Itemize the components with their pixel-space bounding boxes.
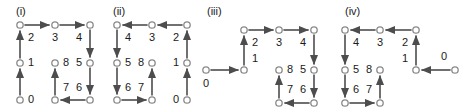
node-n-ml-panel-ii	[114, 60, 120, 66]
edge-label-1-panel-iv: 1	[402, 52, 408, 64]
figure-canvas: 012345678012345678012345678012345678 (i)…	[0, 0, 462, 111]
node-n-bl-panel-ii	[114, 97, 120, 103]
edge-label-0-panel-iv: 0	[441, 50, 447, 62]
edge-label-8-panel-iv: 8	[366, 63, 372, 75]
edge-label-layer: 012345678012345678012345678012345678	[28, 31, 447, 105]
edge-label-4-panel-i: 4	[76, 31, 82, 43]
node-n-mr-panel-ii	[184, 60, 190, 66]
node-n-mr-panel-iv	[413, 67, 419, 73]
edge-label-3-panel-iii: 3	[276, 36, 282, 48]
edge-layer	[20, 25, 451, 103]
edge-label-1-panel-iii: 1	[252, 52, 258, 64]
node-n-bm-panel-ii	[149, 97, 155, 103]
node-n-ml-panel-iv	[342, 67, 348, 73]
node-n-bl-panel-iv	[342, 100, 348, 106]
node-n-ml-panel-i	[17, 60, 23, 66]
node-n-bm-panel-i	[52, 97, 58, 103]
node-n-tl-panel-iv	[342, 27, 348, 33]
node-n-tm-panel-iii	[276, 27, 282, 33]
panel-caption-panel-ii: (ii)	[113, 6, 125, 17]
edge-label-0-panel-i: 0	[28, 93, 34, 105]
node-n-tm-panel-iv	[377, 27, 383, 33]
edge-label-3-panel-iv: 3	[377, 36, 383, 48]
edge-label-8-panel-i: 8	[63, 56, 69, 68]
edge-label-2-panel-iv: 2	[402, 36, 408, 48]
node-n-tl-panel-ii	[114, 22, 120, 28]
edge-label-4-panel-iii: 4	[300, 36, 306, 48]
edge-label-8-panel-ii: 8	[138, 56, 144, 68]
edge-label-4-panel-iv: 4	[353, 36, 359, 48]
node-n-mm-panel-iii	[276, 67, 282, 73]
edge-label-2-panel-i: 2	[28, 31, 34, 43]
node-n-br-panel-i	[87, 97, 93, 103]
node-n-mr-panel-i	[87, 60, 93, 66]
edge-label-6-panel-ii: 6	[125, 81, 131, 93]
edge-label-0-panel-ii: 0	[173, 93, 179, 105]
edge-label-6-panel-iii: 6	[300, 83, 306, 95]
edge-label-1-panel-ii: 1	[173, 56, 179, 68]
node-n-bm-panel-iii	[276, 100, 282, 106]
node-n-tl-panel-iii	[241, 27, 247, 33]
node-n-bm-panel-iv	[377, 100, 383, 106]
edge-label-2-panel-ii: 2	[173, 31, 179, 43]
node-n-tl-panel-i	[17, 22, 23, 28]
edge-label-3-panel-i: 3	[52, 31, 58, 43]
edge-label-5-panel-iv: 5	[353, 63, 359, 75]
node-n-mr-panel-iii	[311, 67, 317, 73]
panel-caption-panel-iv: (iv)	[345, 6, 360, 17]
edge-label-7-panel-iii: 7	[287, 83, 293, 95]
node-n-tr-panel-iv	[413, 27, 419, 33]
panel-caption-panel-i: (i)	[16, 6, 26, 17]
node-n-tm-panel-ii	[149, 22, 155, 28]
panel-caption-panel-iii: (iii)	[207, 6, 222, 17]
node-n-br-panel-ii	[184, 97, 190, 103]
edge-label-3-panel-ii: 3	[149, 31, 155, 43]
edge-label-4-panel-ii: 4	[125, 31, 131, 43]
edge-label-7-panel-ii: 7	[138, 81, 144, 93]
node-n-start-panel-iii	[203, 67, 209, 73]
node-n-br-panel-iii	[311, 100, 317, 106]
node-n-mm-panel-iv	[377, 67, 383, 73]
edge-label-5-panel-i: 5	[76, 56, 82, 68]
node-n-start-panel-iv	[452, 67, 458, 73]
node-n-mm-panel-i	[52, 60, 58, 66]
node-n-tm-panel-i	[52, 22, 58, 28]
edge-label-8-panel-iii: 8	[287, 63, 293, 75]
diagram-svg: 012345678012345678012345678012345678	[0, 0, 462, 111]
edge-label-6-panel-iv: 6	[353, 83, 359, 95]
edge-label-5-panel-ii: 5	[125, 56, 131, 68]
node-n-tr-panel-ii	[184, 22, 190, 28]
node-n-tr-panel-iii	[311, 27, 317, 33]
node-n-tr-panel-i	[87, 22, 93, 28]
edge-label-1-panel-i: 1	[28, 56, 34, 68]
edge-label-0-panel-iii: 0	[203, 77, 209, 89]
node-n-bl-panel-i	[17, 97, 23, 103]
node-n-mm-panel-ii	[149, 60, 155, 66]
edge-label-2-panel-iii: 2	[252, 36, 258, 48]
edge-label-7-panel-iv: 7	[366, 83, 372, 95]
edge-label-5-panel-iii: 5	[300, 63, 306, 75]
node-n-ml-panel-iii	[241, 67, 247, 73]
edge-label-7-panel-i: 7	[63, 81, 69, 93]
node-layer	[17, 22, 458, 106]
edge-label-6-panel-i: 6	[76, 81, 82, 93]
